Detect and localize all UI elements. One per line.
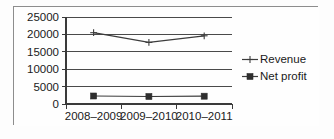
ytick-label-20000: 20000	[27, 28, 59, 40]
line-chart: 25000 20000 15000 10000 5000 0	[14, 7, 319, 126]
legend-label-revenue: Revenue	[260, 53, 306, 65]
legend-marker-square-icon	[247, 74, 253, 80]
marker-net-profit-2008-2009	[91, 93, 97, 99]
marker-net-profit-2010-2011	[201, 93, 207, 99]
chart-frame: 25000 20000 15000 10000 5000 0	[13, 6, 318, 125]
ytick-label-0: 0	[53, 98, 59, 110]
xtick-label-2009-2010: 2009–2010	[120, 110, 178, 122]
ytick-label-5000: 5000	[33, 81, 59, 93]
plot-background	[14, 7, 319, 126]
xtick-label-2008-2009: 2008–2009	[65, 110, 123, 122]
ytick-label-10000: 10000	[27, 63, 59, 75]
ytick-label-15000: 15000	[27, 46, 59, 58]
legend-label-net-profit: Net profit	[260, 70, 307, 82]
screenshot-root: 25000 20000 15000 10000 5000 0	[0, 0, 334, 139]
marker-net-profit-2009-2010	[146, 94, 152, 100]
xtick-label-2010-2011: 2010–2011	[176, 110, 233, 122]
ytick-label-25000: 25000	[27, 11, 59, 23]
